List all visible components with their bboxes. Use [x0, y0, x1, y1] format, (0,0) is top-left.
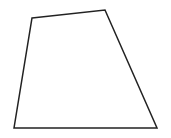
diagram-canvas — [0, 0, 171, 138]
quadrilateral-figure — [0, 0, 171, 138]
quadrilateral-shape — [14, 10, 157, 128]
